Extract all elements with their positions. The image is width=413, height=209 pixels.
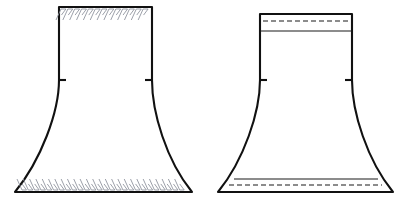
skirt-outline-finished-hem — [218, 14, 393, 192]
illustration-svg — [0, 0, 413, 209]
figure-finished-hem — [218, 14, 393, 192]
figure-raw-edge — [15, 7, 192, 192]
technical-flat-illustration — [0, 0, 413, 209]
skirt-outline-raw-edge — [15, 7, 192, 192]
